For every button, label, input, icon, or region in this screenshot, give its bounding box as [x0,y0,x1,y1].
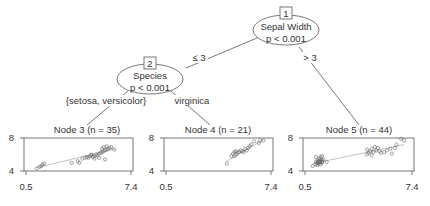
x-tick-label: 0.5 [159,181,172,192]
leaf-title: Node 3 (n = 35) [54,124,120,135]
plot-frame [24,138,133,171]
y-tick-label: 4 [149,165,154,176]
node-id: 1 [283,8,288,19]
x-tick-label: 0.5 [19,181,32,192]
x-axis [166,171,271,175]
edge-label-setosa-versicolor: {setosa, versicolor} [66,95,146,106]
leaf-title: Node 4 (n = 21) [185,124,251,135]
node-id: 2 [147,58,152,69]
x-tick-label: 7.4 [264,181,277,192]
x-axis [305,171,412,175]
x-tick-label: 7.4 [405,181,418,192]
y-tick-label: 8 [288,132,293,143]
y-tick-label: 8 [9,132,14,143]
decision-tree-diagram: ≤ 3 > 3 {setosa, versicolor} virginica 1… [0,0,430,206]
edge-label-le3: ≤ 3 [192,52,205,63]
plot-frame [164,138,273,171]
edge-label-virginica: virginica [175,95,211,106]
y-tick-label: 4 [9,165,14,176]
leaf-panels: Node 3 (n = 35)840.57.4Node 4 (n = 21)84… [9,124,419,192]
y-tick-label: 4 [288,165,293,176]
node-pvalue: p < 0.001 [266,33,306,44]
node-2-species: 2 Species p < 0.001 [117,57,183,94]
edge-label-gt3: > 3 [303,52,316,63]
node-pvalue: p < 0.001 [130,82,170,93]
node-variable: Sepal Width [260,21,311,32]
leaf-node-4: Node 4 (n = 21)840.57.4 [149,124,278,192]
y-axis [299,138,303,171]
leaf-node-5: Node 5 (n = 44)840.57.4 [288,124,419,192]
y-tick-label: 8 [149,132,154,143]
x-tick-label: 7.4 [124,181,137,192]
node-variable: Species [133,70,167,81]
x-axis [26,171,131,175]
node-1-sepal-width: 1 Sepal Width p < 0.001 [253,7,319,45]
x-tick-label: 0.5 [298,181,311,192]
y-axis [20,138,24,171]
y-axis [160,138,164,171]
leaf-title: Node 5 (n = 44) [326,124,392,135]
leaf-node-3: Node 3 (n = 35)840.57.4 [9,124,138,192]
